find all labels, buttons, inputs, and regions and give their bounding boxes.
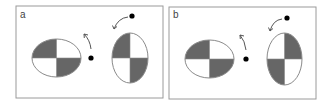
panel-a: a — [16, 6, 163, 98]
panel-a-center-dot — [88, 55, 93, 60]
panel-a-top-dot — [129, 13, 134, 18]
panel-a-label: a — [20, 9, 26, 20]
panel-b-label: b — [173, 9, 179, 20]
panel-b-top-dot — [284, 15, 289, 20]
panel-b: b — [169, 7, 316, 99]
panel-a-horizontal-ellipse — [32, 39, 81, 77]
panel-b-center-dot — [243, 56, 248, 61]
figure-canvas: a — [0, 0, 331, 105]
panel-b-horizontal-ellipse — [185, 40, 234, 78]
panel-b-vertical-ellipse — [267, 33, 302, 85]
panel-a-vertical-ellipse — [112, 33, 148, 83]
